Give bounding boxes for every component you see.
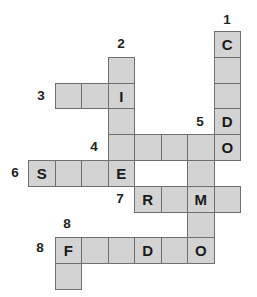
- crossword-puzzle: CIDOSERMFDO 123546788: [0, 0, 257, 297]
- clue-number-6-across: 6: [11, 166, 19, 180]
- clue-number-7-across: 7: [116, 192, 124, 206]
- grid-cell-letter-R: R: [134, 186, 162, 213]
- grid-cell-empty: [55, 83, 83, 110]
- clue-number-8-down: 8: [63, 217, 71, 231]
- grid-cell-empty: [108, 237, 136, 264]
- clue-number-1-down: 1: [223, 13, 231, 27]
- grid-cell-empty: [161, 134, 189, 161]
- grid-cell-empty: [108, 134, 136, 161]
- grid-cell-empty: [187, 134, 215, 161]
- grid-cell-empty: [81, 237, 109, 264]
- grid-cell-letter-D: D: [134, 237, 162, 264]
- grid-cell-letter-E: E: [108, 160, 136, 187]
- clue-number-2-down: 2: [117, 37, 125, 51]
- grid-cell-letter-F: F: [55, 237, 83, 264]
- grid-cell-empty: [55, 263, 83, 290]
- clue-number-8-across: 8: [36, 241, 44, 255]
- grid-cell-letter-O: O: [214, 134, 242, 161]
- grid-cell-empty: [214, 83, 242, 110]
- grid-cell-empty: [81, 160, 109, 187]
- grid-cell-empty: [161, 237, 189, 264]
- grid-cell-empty: [55, 160, 83, 187]
- grid-cell-empty: [134, 134, 162, 161]
- grid-cell-empty: [161, 186, 189, 213]
- clue-number-5-down: 5: [196, 115, 204, 129]
- grid-cell-letter-M: M: [187, 186, 215, 213]
- grid-cell-empty: [214, 57, 242, 84]
- clue-number-4-across: 4: [90, 140, 98, 154]
- grid-cell-letter-D: D: [214, 108, 242, 135]
- grid-cell-letter-S: S: [28, 160, 56, 187]
- grid-cell-letter-O: O: [187, 237, 215, 264]
- grid-cell-empty: [108, 108, 136, 135]
- grid-cell-empty: [108, 57, 136, 84]
- grid-cell-empty: [81, 83, 109, 110]
- grid-cell-empty: [187, 160, 215, 187]
- grid-cell-empty: [214, 186, 242, 213]
- clue-number-3-across: 3: [37, 89, 45, 103]
- grid-cell-empty: [187, 212, 215, 239]
- grid-cell-letter-I: I: [108, 83, 136, 110]
- grid-cell-letter-C: C: [214, 31, 242, 58]
